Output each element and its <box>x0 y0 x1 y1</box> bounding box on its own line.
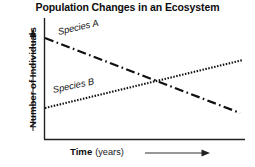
series-line-species-a <box>45 38 240 113</box>
chart-figure: Population Changes in an Ecosystem Numbe… <box>0 0 255 167</box>
right-arrow-icon <box>145 149 210 156</box>
y-axis-label: Number of Individuals <box>27 13 38 143</box>
plot-area <box>0 0 255 167</box>
x-axis-label-title: Time <box>70 146 92 157</box>
x-axis-label: Time (years) <box>70 146 124 157</box>
x-axis-label-unit: (years) <box>95 147 124 157</box>
